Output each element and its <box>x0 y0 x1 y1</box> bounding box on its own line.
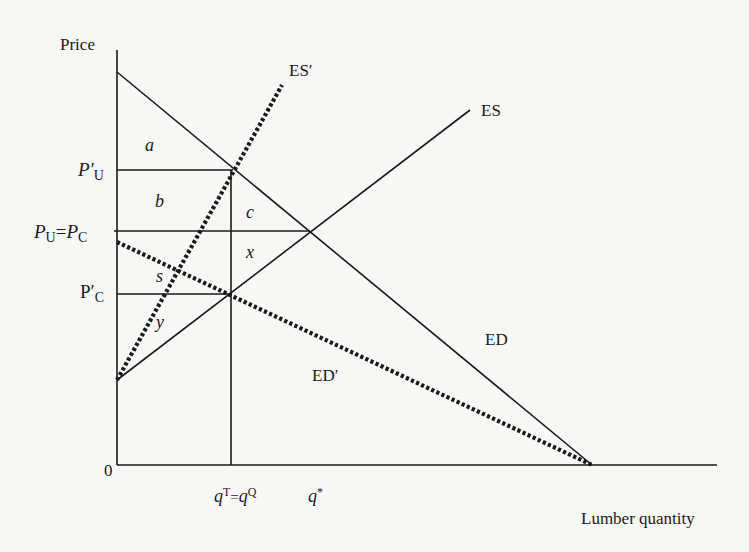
area-s-label: s <box>156 266 163 286</box>
y-axis-label: Price <box>60 35 95 54</box>
p-prime-c-label: P′C <box>80 281 104 305</box>
ed-prime-label: ED′ <box>312 366 338 385</box>
axes <box>117 50 717 465</box>
pu-eq-pc-label: PU=PC <box>33 221 87 245</box>
ed-label: ED <box>485 330 508 349</box>
area-c-label: c <box>246 202 254 222</box>
x-axis-label: Lumber quantity <box>581 509 695 528</box>
area-y-label: y <box>154 312 164 332</box>
es-prime-label: ES′ <box>289 61 313 80</box>
es-prime-curve <box>117 85 282 380</box>
area-b-label: b <box>155 191 164 211</box>
q-star-label: q* <box>308 485 323 506</box>
qt-eq-qq-label: qT=qQ <box>214 485 257 506</box>
trade-policy-diagram: Price Lumber quantity 0 P′U PU=PC P′C qT… <box>0 0 749 552</box>
ed-prime-curve <box>117 242 592 465</box>
p-prime-u-label: P′U <box>77 159 104 183</box>
curves <box>117 72 592 465</box>
area-x-label: x <box>245 242 254 262</box>
es-curve <box>117 110 470 380</box>
es-label: ES <box>481 101 501 120</box>
area-a-label: a <box>145 135 154 155</box>
ed-curve <box>117 72 592 465</box>
origin-label: 0 <box>104 461 113 480</box>
